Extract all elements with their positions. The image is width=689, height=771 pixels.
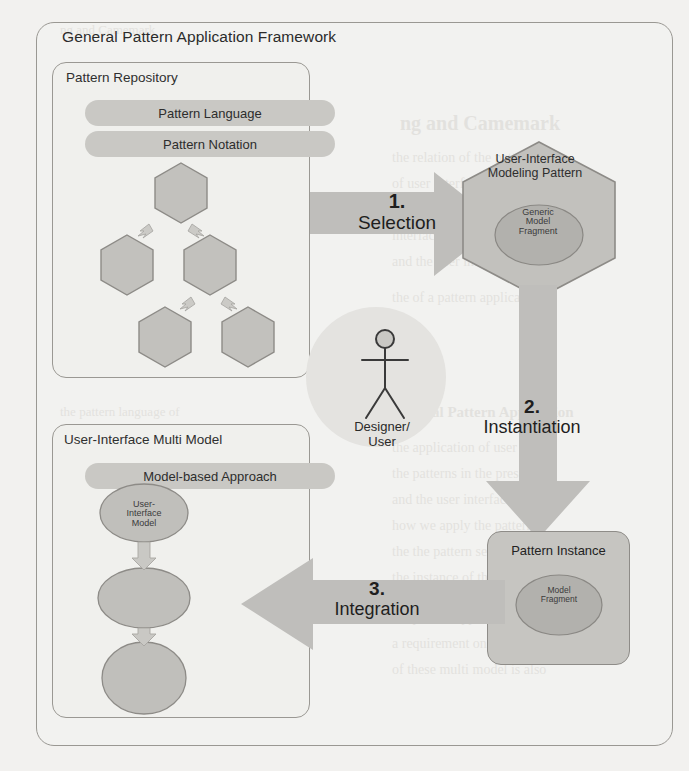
user-interface-model-ellipse	[100, 484, 188, 542]
selection-arrow-text: Selection	[329, 212, 465, 233]
multi-model-ellipse-2	[98, 568, 190, 628]
designer-user-label: Designer/User	[330, 420, 434, 450]
hexagon-mid-right-icon	[184, 235, 236, 295]
selection-arrow-number: 1.	[329, 190, 465, 212]
model-fragment-ellipse	[516, 575, 602, 635]
integration-arrow-label: 3. Integration	[302, 578, 452, 619]
selection-arrow-label: 1. Selection	[329, 190, 465, 234]
framework-title: General Pattern Application Framework	[62, 28, 336, 46]
model-fragment-shape	[487, 560, 630, 660]
integration-arrow-number: 3.	[302, 578, 452, 599]
hexagon-bottom-left-icon	[139, 307, 191, 367]
integration-arrow-text: Integration	[302, 599, 452, 619]
user-interface-multi-model-title: User-Interface Multi Model	[64, 432, 222, 447]
diagram-stage: General Pattern Application Framework Pa…	[0, 0, 689, 771]
pattern-instance-title: Pattern Instance	[487, 543, 630, 558]
user-interface-modeling-pattern-hexagon	[455, 140, 623, 300]
hexagon-mid-left-icon	[101, 235, 153, 295]
pattern-notation-pill[interactable]: Pattern Notation	[85, 131, 335, 157]
instantiation-arrow-label: 2. Instantiation	[457, 396, 607, 437]
hexagon-bottom-right-icon	[222, 307, 274, 367]
pattern-hexagon-network	[52, 155, 310, 380]
generic-model-fragment-ellipse	[495, 205, 583, 265]
multi-model-ellipse-3	[102, 642, 186, 714]
hexagon-top-icon	[155, 163, 207, 223]
pattern-repository-title: Pattern Repository	[66, 70, 178, 85]
pattern-language-pill[interactable]: Pattern Language	[85, 100, 335, 126]
instantiation-arrow-number: 2.	[457, 396, 607, 417]
instantiation-arrow-text: Instantiation	[457, 417, 607, 437]
